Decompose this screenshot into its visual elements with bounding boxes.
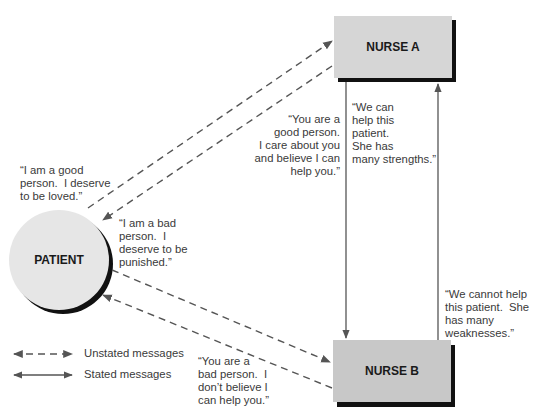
diagram-canvas: NURSE A NURSE B PATIENT bbox=[0, 0, 535, 413]
nurse-a-label: NURSE A bbox=[366, 40, 420, 54]
patient-good-message: “I am a good person. I deserve to be lov… bbox=[20, 164, 110, 203]
nurse-b-node: NURSE B bbox=[333, 340, 455, 407]
nurse-b-to-patient-message: “You are a bad person. I don’t believe I… bbox=[198, 355, 269, 407]
nurse-a-to-patient-message: “You are a good person. I care about you… bbox=[230, 113, 340, 178]
patient-node: PATIENT bbox=[9, 210, 113, 314]
nurse-b-label: NURSE B bbox=[365, 364, 419, 378]
nurse-b-to-nurse-a-message: “We cannot help this patient. She has ma… bbox=[445, 288, 529, 340]
nurse-a-node: NURSE A bbox=[334, 16, 456, 82]
nurse-a-to-nurse-b-message: “We can help this patient. She has many … bbox=[352, 101, 436, 166]
patient-label: PATIENT bbox=[34, 253, 84, 267]
legend-stated-label: Stated messages bbox=[84, 368, 171, 380]
legend-unstated-label: Unstated messages bbox=[84, 347, 184, 359]
patient-bad-message: “I am a bad person. I deserve to be puni… bbox=[119, 217, 187, 269]
